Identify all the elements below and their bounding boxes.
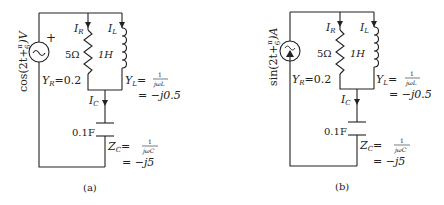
yl-frac-den: jωL xyxy=(404,79,417,87)
arrow-il xyxy=(371,21,377,27)
sine-wave-icon xyxy=(285,46,295,50)
circuit-figure: + cos(2t+π6)V IR IL 5Ω 1H YR=0.2 YL= 1 j… xyxy=(0,0,444,205)
polarity-plus: + xyxy=(46,31,56,45)
current-ir-label: IR xyxy=(73,22,84,36)
arrow-ir xyxy=(337,21,343,27)
arrow-ic xyxy=(354,99,360,105)
yl-label: YL= xyxy=(376,73,397,87)
zc-result: = −j5 xyxy=(122,156,154,169)
arrow-ir xyxy=(85,22,91,28)
resistor-symbol xyxy=(336,30,344,74)
inductor-symbol xyxy=(122,28,127,68)
zc-frac-den: jωC xyxy=(393,146,407,154)
source-label-b: sin(2t+π6)A xyxy=(266,27,282,86)
resistor-value: 5Ω xyxy=(65,49,80,60)
inductor-value: 1H xyxy=(350,48,365,59)
sine-wave-icon xyxy=(33,51,45,56)
zc-frac-num: 1 xyxy=(400,137,404,144)
yl-frac-num: 1 xyxy=(410,70,414,77)
yr-label: YR=0.2 xyxy=(42,74,81,88)
source-label-a: cos(2t+π6)V xyxy=(16,30,32,92)
yl-frac-den: jωL xyxy=(152,80,165,88)
zc-label: ZC= xyxy=(359,139,382,153)
zc-result: = −j5 xyxy=(373,155,405,168)
yr-label: YR=0.2 xyxy=(292,73,331,87)
wire-resistor-bottom xyxy=(340,74,374,89)
resistor-symbol xyxy=(84,30,92,74)
current-ir-label: IR xyxy=(325,21,336,35)
inductor-symbol xyxy=(374,27,379,67)
current-il-label: IL xyxy=(107,22,117,36)
source-arrowhead xyxy=(286,50,294,57)
capacitor-value: 0.1F xyxy=(324,126,347,137)
arrow-ic xyxy=(102,100,108,106)
yl-result: = −j0.5 xyxy=(138,89,181,102)
yl-label: YL= xyxy=(125,74,146,88)
zc-frac-num: 1 xyxy=(148,138,152,145)
inductor-value: 1H xyxy=(98,49,113,60)
capacitor-value: 0.1F xyxy=(72,127,95,138)
zc-frac-den: jωC xyxy=(141,147,155,155)
yl-frac-num: 1 xyxy=(158,71,162,78)
arrow-il xyxy=(119,22,125,28)
zc-label: ZC= xyxy=(107,140,130,154)
caption-b: (b) xyxy=(335,181,349,192)
yl-result: = −j0.5 xyxy=(389,88,432,101)
wire-resistor-bottom xyxy=(88,74,122,90)
current-ic-label: IC xyxy=(340,93,351,107)
caption-a: (a) xyxy=(83,182,97,193)
current-ic-label: IC xyxy=(88,94,99,108)
resistor-value: 5Ω xyxy=(317,48,332,59)
current-il-label: IL xyxy=(359,21,369,35)
